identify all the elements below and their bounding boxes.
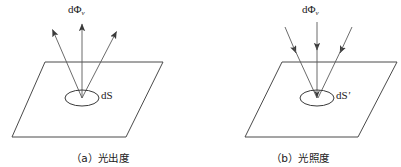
area-prime-b: ' [348, 89, 350, 101]
plane-surface-a [12, 62, 163, 137]
diagram-a-graphics [0, 0, 200, 167]
area-label-a: dS [101, 90, 113, 101]
area-symbol-b: dS [336, 89, 348, 101]
caption-a: （a）光出度 [0, 153, 200, 164]
ray-left-a [53, 30, 83, 99]
flux-symbol-b: dΦ [302, 3, 316, 15]
diagram-b-graphics [200, 0, 401, 167]
panel-illuminance: dΦv dS' （b）光照度 [200, 0, 400, 167]
panel-luminous-exitance: dΦv dS （a）光出度 [0, 0, 200, 167]
flux-rays-a [53, 24, 117, 98]
flux-subscript-a: v [82, 9, 85, 17]
figure-container: dΦv dS （a）光出度 [0, 0, 401, 167]
flux-rays-b [285, 22, 352, 98]
flux-subscript-b: v [316, 9, 319, 17]
area-label-b: dS' [336, 90, 350, 101]
flux-symbol-a: dΦ [68, 3, 82, 15]
flux-label-b: dΦv [302, 4, 319, 15]
flux-label-a: dΦv [68, 4, 85, 15]
area-symbol-a: dS [101, 89, 113, 101]
caption-b: （b）光照度 [200, 153, 400, 164]
plane-surface-b [245, 62, 397, 137]
